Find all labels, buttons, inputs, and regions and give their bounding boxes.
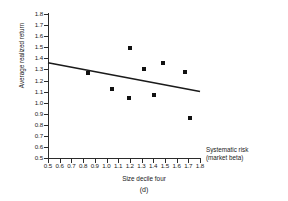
data-point — [86, 71, 90, 75]
chart-figure: 1.81.71.61.51.41.31.21.11.00.90.80.70.60… — [0, 0, 288, 201]
regression-trendline — [0, 0, 288, 201]
data-point — [152, 93, 156, 97]
x-axis-title-line2: (market beta) — [206, 154, 286, 162]
data-point — [127, 96, 131, 100]
x-axis-title-line1: Systematic risk — [206, 146, 286, 154]
data-point — [161, 61, 165, 65]
data-point — [183, 70, 187, 74]
data-point — [128, 46, 132, 50]
panel-label: (d) — [0, 186, 288, 193]
data-point — [142, 67, 146, 71]
trendline-segment — [48, 63, 200, 92]
x-axis-title: Systematic risk (market beta) — [206, 146, 286, 162]
group-label: Size decile four — [0, 175, 288, 182]
y-axis-title: Average realized return — [18, 1, 25, 111]
data-point — [188, 116, 192, 120]
data-point — [110, 87, 114, 91]
